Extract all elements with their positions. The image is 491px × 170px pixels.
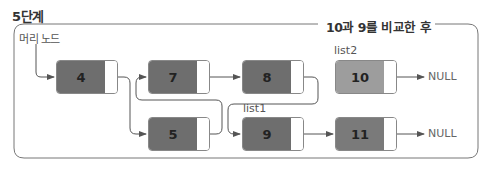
node-pointer [105, 61, 117, 93]
step-title: 5단계 [12, 6, 44, 25]
node-data: 4 [57, 61, 105, 93]
node-4: 4 [56, 60, 118, 94]
node-pointer [197, 118, 209, 150]
node-data: 9 [243, 118, 291, 150]
node-5: 5 [148, 117, 210, 151]
null-label-bottom: NULL [428, 127, 457, 140]
node-8: 8 [242, 60, 304, 94]
node-pointer [291, 118, 303, 150]
node-pointer [291, 61, 303, 93]
list1-label: list1 [243, 102, 266, 115]
node-10: 10 [335, 60, 397, 94]
node-7: 7 [148, 60, 210, 94]
null-label-top: NULL [428, 70, 457, 83]
node-pointer [384, 118, 396, 150]
head-node-label: 머리 노드 [19, 30, 60, 46]
node-pointer [197, 61, 209, 93]
list2-label: list2 [334, 44, 357, 57]
node-9: 9 [242, 117, 304, 151]
node-data: 11 [336, 118, 384, 150]
node-data: 5 [149, 118, 197, 150]
frame-title: 10과 9를 비교한 후 [322, 17, 435, 36]
link-head-to-4 [36, 44, 54, 77]
node-11: 11 [335, 117, 397, 151]
node-pointer [384, 61, 396, 93]
node-data: 10 [336, 61, 384, 93]
node-data: 7 [149, 61, 197, 93]
node-data: 8 [243, 61, 291, 93]
